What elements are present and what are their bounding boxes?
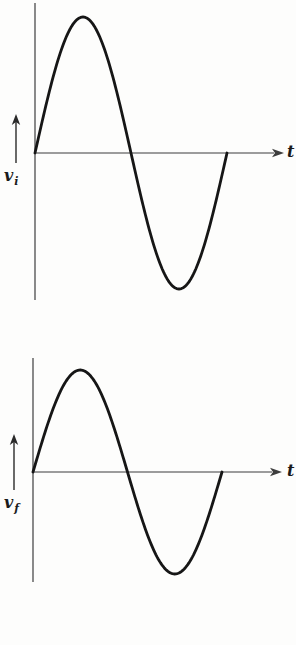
vi-axis-label: vi bbox=[4, 168, 18, 184]
vf-time-axis-label: t bbox=[287, 463, 294, 479]
vi-time-axis-label: t bbox=[287, 144, 294, 160]
chart-vf-waveform: vf t bbox=[0, 330, 296, 645]
vf-sine-plot bbox=[0, 330, 296, 645]
vi-sine-plot bbox=[0, 0, 296, 330]
vi-label-base: v bbox=[4, 166, 13, 185]
vi-label-subscript: i bbox=[14, 175, 18, 188]
vf-label-subscript: f bbox=[14, 502, 19, 515]
chart-vi-waveform: vi t bbox=[0, 0, 296, 330]
vf-axis-label: vf bbox=[4, 495, 19, 511]
textbook-waveform-figure: vi t vf t bbox=[0, 0, 296, 645]
vf-label-base: v bbox=[4, 493, 13, 512]
